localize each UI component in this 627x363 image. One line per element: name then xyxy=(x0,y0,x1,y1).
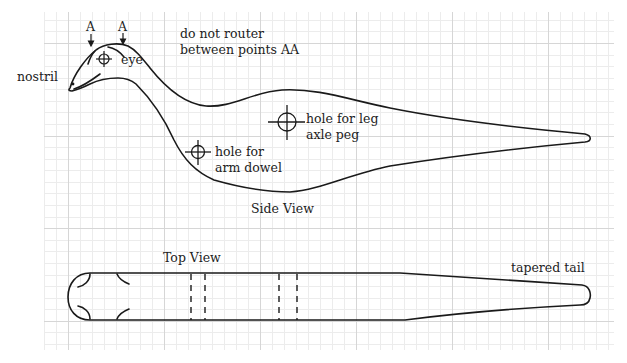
arc-bottom-right xyxy=(117,309,129,319)
point-a-label-1: A xyxy=(86,19,95,34)
leg-hole-label-line1: hole for leg xyxy=(306,111,378,126)
top-view-outline xyxy=(0,0,627,363)
router-note-line1: do not router xyxy=(180,26,264,41)
point-a-label-2: A xyxy=(118,19,127,34)
tapered-tail-label: tapered tail xyxy=(511,260,585,275)
dinosaur-template-diagram: A A do not router between points AA eye … xyxy=(0,0,627,363)
top-view-title: Top View xyxy=(163,250,221,265)
eye-label: eye xyxy=(121,52,143,67)
nostril-label: nostril xyxy=(17,69,58,84)
arm-hole-label-line1: hole for xyxy=(215,144,264,159)
leg-hole-label-line2: axle peg xyxy=(306,127,359,142)
arc-top-right xyxy=(117,274,129,284)
router-note-line2: between points AA xyxy=(180,42,299,57)
side-view-title: Side View xyxy=(251,201,314,216)
top-view-body-outline xyxy=(68,273,590,320)
dowel-hole-dashed-lines xyxy=(191,274,297,320)
arm-hole-label-line2: arm dowel xyxy=(215,160,282,175)
